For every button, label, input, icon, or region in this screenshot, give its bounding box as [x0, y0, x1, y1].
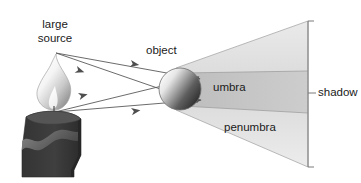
candle-light-source: [22, 54, 81, 177]
label-shadow: shadow: [318, 86, 358, 100]
object-sphere: [159, 68, 201, 110]
candle-top-rim: [26, 111, 81, 124]
arrowhead-mid-far-lower: [131, 107, 141, 115]
label-large-source: large source: [12, 18, 98, 45]
label-large-source-line1: large: [12, 18, 98, 32]
penumbra-upper-wedge: [176, 21, 308, 76]
label-penumbra: penumbra: [224, 121, 276, 135]
label-umbra: umbra: [213, 81, 246, 95]
arrowhead-mid-lower: [78, 91, 88, 100]
penumbra-lower-wedge: [176, 103, 308, 167]
label-object: object: [146, 44, 177, 58]
arrowhead-mid-upper: [75, 66, 86, 76]
ray-midpoint-arrowheads: [75, 60, 141, 115]
shadow-bracket: [308, 21, 316, 167]
sphere-body: [159, 68, 201, 110]
label-large-source-line2: source: [12, 32, 98, 46]
shadow-diagram: large source object umbra penumbra shado…: [0, 0, 361, 183]
